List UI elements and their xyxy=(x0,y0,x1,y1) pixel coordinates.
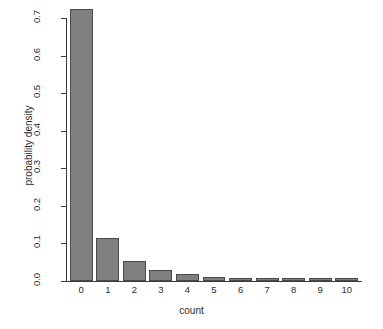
y-axis-tick xyxy=(61,281,66,282)
bar xyxy=(149,270,172,281)
x-axis-tick-label: 4 xyxy=(176,284,199,295)
x-axis-tick-label: 6 xyxy=(229,284,252,295)
y-axis-line xyxy=(66,18,67,282)
x-axis-tick-label: 0 xyxy=(70,284,93,295)
y-axis-tick-label: 0.0 xyxy=(31,260,42,300)
x-axis-tick-label: 7 xyxy=(256,284,279,295)
y-axis-tick xyxy=(61,131,66,132)
bar xyxy=(70,9,93,281)
x-axis-tick-label: 9 xyxy=(309,284,332,295)
y-axis-tick xyxy=(61,206,66,207)
y-axis-tick xyxy=(61,18,66,19)
bars-layer xyxy=(0,0,383,329)
bar xyxy=(123,261,146,281)
x-axis-tick-label: 2 xyxy=(123,284,146,295)
y-axis-title: probability density xyxy=(23,66,34,226)
y-axis-tick xyxy=(61,56,66,57)
bar xyxy=(176,274,199,281)
x-axis-tick-label: 1 xyxy=(96,284,119,295)
bar xyxy=(96,238,119,281)
x-axis-line xyxy=(66,281,362,282)
x-axis-tick-label: 8 xyxy=(282,284,305,295)
x-axis-tick-label: 3 xyxy=(149,284,172,295)
y-axis-tick xyxy=(61,168,66,169)
chart-figure: 0.00.10.20.30.40.50.60.7 012345678910 co… xyxy=(0,0,383,329)
y-axis-tick-label: 0.1 xyxy=(31,222,42,262)
x-axis-tick-label: 5 xyxy=(203,284,226,295)
y-axis-tick xyxy=(61,243,66,244)
x-axis-title: count xyxy=(0,305,383,316)
y-axis-tick-label: 0.7 xyxy=(31,0,42,37)
y-axis-tick xyxy=(61,93,66,94)
x-axis-tick-label: 10 xyxy=(335,284,358,295)
